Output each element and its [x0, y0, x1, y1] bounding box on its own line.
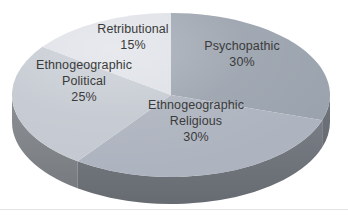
slice-label-retributional: Retributional 15% — [97, 21, 168, 53]
bottom-divider-line — [0, 209, 348, 210]
slice-label-ethnogeographic-political: Ethnogeographic Political 25% — [36, 57, 132, 105]
chart-figure: Retributional 15% Psychopathic 30% Ethno… — [0, 0, 348, 215]
slice-label-ethnogeographic-religious: Ethnogeographic Religious 30% — [148, 97, 244, 145]
slice-label-psychopathic: Psychopathic 30% — [204, 38, 280, 70]
